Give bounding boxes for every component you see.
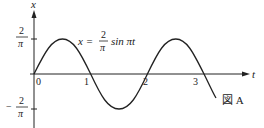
equation-denominator: π [100,42,106,53]
t-tick-2-label: 2 [143,76,148,87]
equation-rhs: sin πt [111,35,136,47]
t-tick-3-label: 3 [193,76,198,87]
figure-label: 図 A [222,94,244,106]
y-bottom-numerator: 2 [19,95,24,106]
t-axis-label: t [252,68,256,80]
equation: x = 2 π sin πt [77,29,136,53]
t-tick-1-label: 1 [84,76,89,87]
y-top-denominator: π [18,38,24,49]
y-bottom-denominator: π [18,108,24,119]
equation-numerator: 2 [101,29,106,40]
x-axis-arrow-icon [32,10,37,18]
origin-label: 0 [36,76,41,87]
equation-lhs: x = [77,35,93,47]
y-top-numerator: 2 [19,25,24,36]
sine-graph: x t 0 1 2 3 2 π − 2 π x = 2 π sin πt 図 A [0,0,264,128]
y-axis-label: x [30,0,36,10]
t-axis-arrow-icon [242,72,250,77]
y-bottom-sign: − [6,101,12,112]
